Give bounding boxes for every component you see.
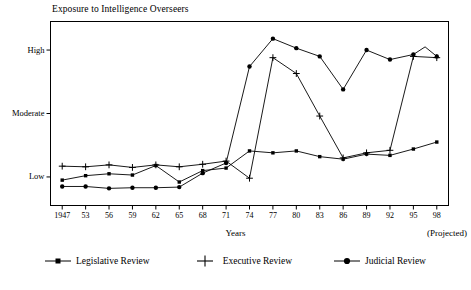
- data-point: [435, 54, 439, 58]
- y-axis-label: Low: [29, 171, 45, 181]
- data-point: [224, 166, 227, 169]
- data-point: [412, 147, 415, 150]
- series-judicial-review: [60, 36, 439, 190]
- data-point: [61, 178, 64, 181]
- x-axis-label: 98: [421, 211, 453, 220]
- data-point: [388, 57, 392, 61]
- data-point: [60, 184, 64, 188]
- x-axis-title: Years: [0, 228, 471, 238]
- data-point: [271, 151, 274, 154]
- data-point: [318, 54, 322, 58]
- data-point: [131, 173, 134, 176]
- legend-key-judicial-icon: [334, 255, 360, 267]
- data-point: [84, 174, 87, 177]
- data-point: [130, 186, 134, 190]
- data-point: [294, 46, 298, 50]
- legend-key-legislative-icon: [45, 255, 71, 267]
- legend-item-legislative[interactable]: Legislative Review: [45, 255, 150, 267]
- chart-plot-area: [0, 0, 471, 290]
- data-point: [364, 48, 368, 52]
- data-point: [224, 161, 228, 165]
- data-point: [177, 185, 181, 189]
- chart-title: Exposure to Intelligence Overseers: [52, 4, 189, 14]
- data-point: [247, 64, 251, 68]
- y-axis-label: Moderate: [12, 108, 45, 118]
- data-point: [107, 172, 110, 175]
- data-point: [388, 154, 391, 157]
- projected-note: (Projected): [427, 228, 467, 238]
- data-point: [178, 180, 181, 183]
- chart-legend: Legislative Review Executive Review Judi…: [0, 248, 471, 274]
- legend-label-judicial: Judicial Review: [365, 256, 426, 266]
- data-point: [107, 186, 111, 190]
- series-line: [62, 56, 437, 178]
- data-point: [154, 186, 158, 190]
- series-executive-review: [59, 53, 440, 182]
- legend-item-judicial[interactable]: Judicial Review: [334, 255, 426, 267]
- y-axis-label: High: [28, 45, 45, 55]
- data-point: [200, 171, 204, 175]
- data-point: [341, 87, 345, 91]
- data-point: [271, 36, 275, 40]
- data-point: [295, 149, 298, 152]
- legend-key-executive-icon: [192, 255, 218, 267]
- data-point: [248, 149, 251, 152]
- legend-item-executive[interactable]: Executive Review: [192, 255, 292, 267]
- legend-label-executive: Executive Review: [223, 256, 292, 266]
- data-point: [435, 140, 438, 143]
- data-point: [411, 52, 415, 56]
- chart-figure: Exposure to Intelligence Overseers Legis…: [0, 0, 471, 290]
- data-point: [83, 184, 87, 188]
- data-point: [318, 155, 321, 158]
- legend-label-legislative: Legislative Review: [76, 256, 150, 266]
